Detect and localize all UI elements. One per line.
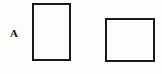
rectangle-left — [32, 3, 71, 61]
rectangle-right — [105, 18, 155, 62]
figure-label-a: A — [10, 28, 18, 39]
figure-canvas: A — [0, 0, 162, 74]
